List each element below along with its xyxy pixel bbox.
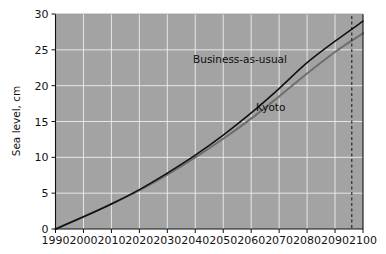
x-tick-label: 2040 <box>181 234 209 247</box>
x-tick-label: 2100 <box>349 234 377 247</box>
x-axis-tick-labels: 1990200020102020203020402050206020702080… <box>42 234 378 247</box>
y-axis-ticks <box>52 14 56 229</box>
y-tick-label: 30 <box>35 8 49 21</box>
y-axis-tick-labels: 051015202530 <box>35 8 49 236</box>
y-tick-label: 15 <box>35 116 49 129</box>
x-tick-label: 2060 <box>237 234 265 247</box>
y-tick-label: 25 <box>35 44 49 57</box>
x-tick-label: 2030 <box>153 234 181 247</box>
series-label-business-as-usual: Business-as-usual <box>193 53 287 65</box>
y-axis-title: Sea level, cm <box>10 86 22 157</box>
x-tick-label: 2000 <box>69 234 97 247</box>
x-tick-label: 2090 <box>321 234 349 247</box>
y-tick-label: 0 <box>42 223 49 236</box>
y-tick-label: 10 <box>35 151 49 164</box>
x-axis-ticks <box>56 229 364 233</box>
y-tick-label: 5 <box>42 187 49 200</box>
x-tick-label: 2080 <box>293 234 321 247</box>
chart-canvas: 1990200020102020203020402050206020702080… <box>0 0 386 254</box>
x-tick-label: 2010 <box>97 234 125 247</box>
sea-level-projection-chart: 1990200020102020203020402050206020702080… <box>0 0 386 254</box>
series-label-kyoto: Kyoto <box>256 101 285 113</box>
y-tick-label: 20 <box>35 80 49 93</box>
x-tick-label: 2020 <box>125 234 153 247</box>
x-tick-label: 2050 <box>209 234 237 247</box>
x-tick-label: 2070 <box>265 234 293 247</box>
